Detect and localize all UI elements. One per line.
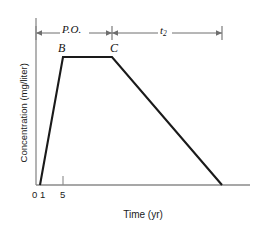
arrowhead-po-left — [36, 30, 42, 35]
arrowhead-po-right — [106, 30, 112, 35]
span-label-po: P.O. — [62, 24, 82, 35]
arrowhead-t2-right — [216, 30, 222, 35]
y-axis-title: Concentration (mg/liter) — [19, 43, 29, 183]
point-label-b: B — [58, 42, 65, 54]
x-tick-label-1: 1 — [40, 190, 45, 200]
x-tick-label-0: 0 — [32, 190, 37, 200]
concentration-time-figure: P.O. t2 B C 0 1 5 Concentration (mg/lite… — [0, 0, 264, 234]
concentration-curve — [40, 57, 222, 185]
point-label-c: C — [110, 42, 118, 54]
span-label-t2-subscript: 2 — [163, 29, 167, 38]
arrowhead-t2-left — [112, 30, 118, 35]
x-tick-label-5: 5 — [60, 190, 65, 200]
x-axis-title: Time (yr) — [36, 210, 250, 220]
span-label-t2: t2 — [160, 25, 167, 36]
